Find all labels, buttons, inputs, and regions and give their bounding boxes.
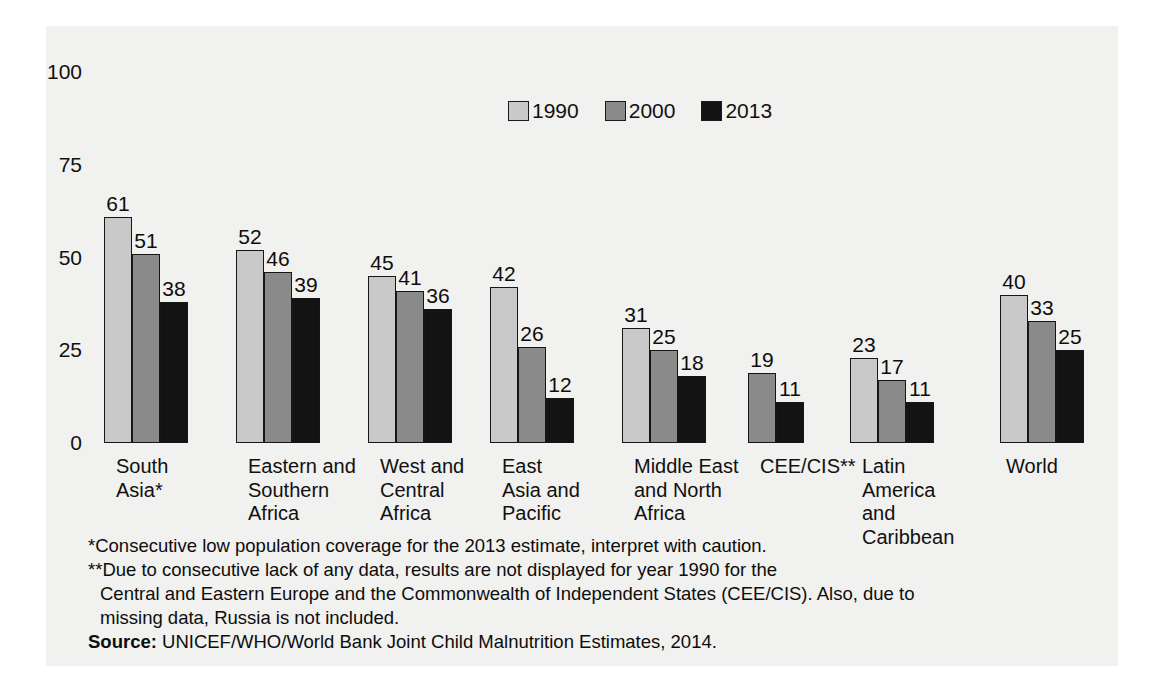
legend-label-1990: 1990 [532, 100, 579, 121]
y-axis-tick-25: 25 [22, 339, 82, 360]
bar-value-1990-8: 40 [994, 271, 1034, 292]
bar-value-2013-6: 11 [770, 378, 810, 399]
bar-2013-1 [160, 302, 188, 443]
y-axis-tick-100: 100 [22, 61, 82, 82]
category-label-5: Middle East and North Africa [634, 455, 739, 526]
y-axis-tick-0: 0 [22, 432, 82, 453]
bar-1990-2 [236, 250, 264, 443]
legend-swatch-1990 [508, 101, 529, 121]
bar-2013-4 [546, 398, 574, 443]
category-label-8: World [1006, 455, 1058, 479]
source-note: Source: UNICEF/WHO/World Bank Joint Chil… [88, 630, 1108, 654]
bar-2013-5 [678, 376, 706, 443]
bar-value-2013-2: 39 [286, 274, 326, 295]
footnote-double-asterisk-line3: missing data, Russia is not included. [88, 606, 1108, 630]
bar-value-2013-7: 11 [900, 378, 940, 399]
bar-value-2000-1: 51 [126, 230, 166, 251]
legend-swatch-2013 [701, 101, 722, 121]
bar-value-2013-4: 12 [540, 374, 580, 395]
chart-figure: 0255075100615138South Asia*524639Eastern… [0, 0, 1164, 687]
bar-value-1990-1: 61 [98, 193, 138, 214]
y-axis-tick-50: 50 [22, 247, 82, 268]
legend-label-2000: 2000 [629, 100, 676, 121]
bar-value-2013-1: 38 [154, 278, 194, 299]
category-label-4: East Asia and Pacific [502, 455, 580, 526]
bar-2013-8 [1056, 350, 1084, 443]
bar-2013-7 [906, 402, 934, 443]
category-label-3: West and Central Africa [380, 455, 464, 526]
category-label-1: South Asia* [116, 455, 168, 502]
bar-value-1990-2: 52 [230, 226, 270, 247]
category-label-6: CEE/CIS** [760, 455, 856, 479]
source-text: UNICEF/WHO/World Bank Joint Child Malnut… [157, 631, 717, 652]
legend-item-1990: 1990 [508, 100, 579, 121]
chart-legend: 199020002013 [508, 100, 772, 121]
bar-value-2000-7: 17 [872, 356, 912, 377]
y-axis-tick-75: 75 [22, 154, 82, 175]
bar-1990-4 [490, 287, 518, 443]
footnote-asterisk: *Consecutive low population coverage for… [88, 534, 1108, 558]
category-label-2: Eastern and Southern Africa [248, 455, 356, 526]
bar-2000-3 [396, 291, 424, 443]
bar-value-2013-3: 36 [418, 285, 458, 306]
legend-swatch-2000 [605, 101, 626, 121]
bar-value-2000-2: 46 [258, 248, 298, 269]
bar-2013-2 [292, 298, 320, 443]
bar-value-1990-4: 42 [484, 263, 524, 284]
bar-value-2013-8: 25 [1050, 326, 1090, 347]
legend-label-2013: 2013 [725, 100, 772, 121]
legend-item-2013: 2013 [701, 100, 772, 121]
bar-2013-6 [776, 402, 804, 443]
bar-value-2013-5: 18 [672, 352, 712, 373]
bar-value-2000-4: 26 [512, 323, 552, 344]
chart-footnotes: *Consecutive low population coverage for… [88, 534, 1108, 654]
footnote-double-asterisk-line2: Central and Eastern Europe and the Commo… [88, 582, 1108, 606]
bar-2013-3 [424, 309, 452, 443]
bar-1990-3 [368, 276, 396, 443]
bar-value-1990-7: 23 [844, 334, 884, 355]
bar-value-2000-8: 33 [1022, 297, 1062, 318]
legend-item-2000: 2000 [605, 100, 676, 121]
bar-value-2000-6: 19 [742, 349, 782, 370]
footnote-double-asterisk-line1: **Due to consecutive lack of any data, r… [88, 558, 1108, 582]
bar-value-2000-5: 25 [644, 326, 684, 347]
bar-value-1990-5: 31 [616, 304, 656, 325]
bar-2000-2 [264, 272, 292, 443]
source-label: Source: [88, 631, 157, 652]
